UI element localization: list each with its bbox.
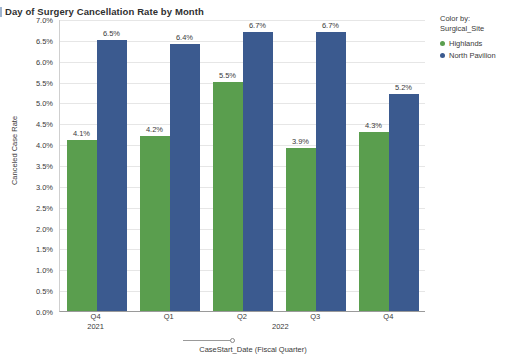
bar-value-label: 4.3%	[365, 121, 382, 130]
legend: Color by: Surgical_Site Highlands North …	[440, 14, 506, 63]
bar-group: 4.3%5.2%	[359, 20, 419, 311]
x-axis-tick: Q4	[357, 312, 419, 331]
bar-group: 4.1%6.5%	[67, 20, 127, 311]
y-axis-tick: 2.5%	[36, 203, 53, 212]
x-axis-period-2022: 2022	[272, 322, 289, 331]
y-axis-tick: 7.0%	[36, 16, 53, 25]
y-axis-tick: 1.5%	[36, 245, 53, 254]
x-axis-period-2021: 2021	[65, 322, 127, 331]
legend-item-north-pavilion[interactable]: North Pavilion	[440, 51, 506, 60]
x-axis-tick: Q3	[284, 312, 346, 331]
bar-value-label: 6.7%	[249, 21, 266, 30]
bar-slot: 4.3%	[359, 20, 389, 311]
bar-north-pavilion[interactable]: 5.2%	[389, 94, 419, 311]
x-axis-tick: Q42021	[65, 312, 127, 331]
bar-value-label: 6.5%	[103, 29, 120, 38]
y-axis-tick-labels: 7.0%6.5%6.0%5.5%5.0%4.5%4.0%3.5%3.0%2.5%…	[24, 20, 57, 312]
slider-knob[interactable]	[230, 338, 235, 343]
slider-track	[183, 340, 235, 341]
legend-label-highlands: Highlands	[449, 39, 482, 48]
legend-label-north-pavilion: North Pavilion	[449, 51, 496, 60]
bar-value-label: 4.2%	[146, 125, 163, 134]
bar-slot: 6.5%	[97, 20, 127, 311]
plot-area: 4.1%6.5%4.2%6.4%5.5%6.7%3.9%6.7%4.3%5.2%	[59, 20, 425, 312]
x-axis-tick-labels: Q42021Q1Q2Q3Q4	[59, 312, 425, 331]
bar-group: 3.9%6.7%	[286, 20, 346, 311]
x-axis-tick: Q2	[211, 312, 273, 331]
bar-value-label: 6.7%	[322, 21, 339, 30]
y-axis-tick: 6.0%	[36, 57, 53, 66]
bar-value-label: 5.2%	[395, 83, 412, 92]
y-axis-tick: 3.5%	[36, 162, 53, 171]
y-axis-tick: 0.0%	[36, 308, 53, 317]
bar-north-pavilion[interactable]: 6.5%	[97, 40, 127, 311]
bar-north-pavilion[interactable]: 6.7%	[243, 32, 273, 311]
y-axis-tick: 2.0%	[36, 224, 53, 233]
y-axis-tick: 5.0%	[36, 99, 53, 108]
bar-value-label: 6.4%	[176, 33, 193, 42]
y-axis-tick: 3.0%	[36, 182, 53, 191]
y-axis-title-text: Canceled Case Rate	[11, 115, 20, 184]
x-axis-tick: Q1	[138, 312, 200, 331]
legend-caption-line1: Color by:	[440, 14, 506, 24]
bar-slot: 4.1%	[67, 20, 97, 311]
legend-color-swatch-north-pavilion	[440, 53, 445, 58]
bar-group: 5.5%6.7%	[213, 20, 273, 311]
y-axis-tick: 5.5%	[36, 78, 53, 87]
bar-slot: 4.2%	[140, 20, 170, 311]
legend-caption-line2: Surgical_Site	[440, 24, 506, 34]
legend-item-highlands[interactable]: Highlands	[440, 39, 506, 48]
bar-slot: 6.4%	[170, 20, 200, 311]
bar-highlands[interactable]: 4.1%	[67, 140, 97, 311]
bar-groups: 4.1%6.5%4.2%6.4%5.5%6.7%3.9%6.7%4.3%5.2%	[60, 20, 425, 311]
chart-title-bar: Day of Surgery Cancellation Rate by Mont…	[0, 6, 204, 17]
bar-highlands[interactable]: 3.9%	[286, 148, 316, 311]
page-title: Day of Surgery Cancellation Rate by Mont…	[5, 6, 204, 17]
bar-slot: 6.7%	[316, 20, 346, 311]
y-axis-tick: 0.5%	[36, 287, 53, 296]
bar-group: 4.2%6.4%	[140, 20, 200, 311]
x-axis-title: CaseStart_Date (Fiscal Quarter)	[0, 345, 506, 354]
bar-slot: 3.9%	[286, 20, 316, 311]
y-axis-tick: 4.0%	[36, 141, 53, 150]
y-axis-tick: 1.0%	[36, 266, 53, 275]
legend-caption: Color by: Surgical_Site	[440, 14, 506, 34]
plot-wrapper: 7.0%6.5%6.0%5.5%5.0%4.5%4.0%3.5%3.0%2.5%…	[24, 20, 425, 312]
bar-value-label: 5.5%	[219, 71, 236, 80]
bar-slot: 5.2%	[389, 20, 419, 311]
bar-value-label: 3.9%	[292, 137, 309, 146]
bar-slot: 6.7%	[243, 20, 273, 311]
bar-north-pavilion[interactable]: 6.4%	[170, 44, 200, 311]
y-axis-tick: 6.5%	[36, 36, 53, 45]
title-accent-mark	[0, 7, 2, 17]
y-axis-tick: 4.5%	[36, 120, 53, 129]
bar-north-pavilion[interactable]: 6.7%	[316, 32, 346, 311]
y-axis-title: Canceled Case Rate	[8, 0, 22, 300]
bar-value-label: 4.1%	[73, 129, 90, 138]
bar-highlands[interactable]: 4.3%	[359, 132, 389, 311]
legend-color-swatch-highlands	[440, 41, 445, 46]
bar-slot: 5.5%	[213, 20, 243, 311]
quarter-range-slider[interactable]	[183, 337, 245, 345]
bar-highlands[interactable]: 5.5%	[213, 82, 243, 311]
bar-highlands[interactable]: 4.2%	[140, 136, 170, 311]
